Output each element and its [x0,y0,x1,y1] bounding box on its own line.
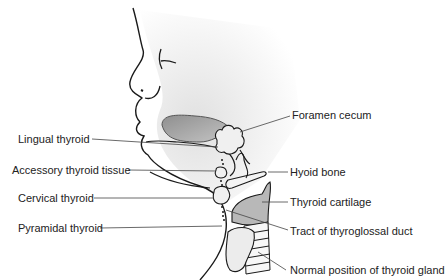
label-normal-position-of-thyroid-gland: Normal position of thyroid gland [290,264,445,276]
label-lingual-thyroid: Lingual thyroid [18,133,90,145]
cervical-thyroid-blob [213,186,229,204]
label-accessory-thyroid-tissue: Accessory thyroid tissue [12,164,131,176]
label-cervical-thyroid: Cervical thyroid [18,192,94,204]
label-hyoid-bone: Hyoid bone [290,166,346,178]
nasal-ala-icon [145,86,160,99]
label-foramen-cecum: Foramen cecum [292,109,371,121]
accessory-thyroid-blob [215,167,227,178]
label-tract-of-thyroglossal-duct: Tract of thyroglossal duct [290,225,412,237]
nostril-icon [141,90,143,91]
label-pyramidal-thyroid: Pyramidal thyroid [18,222,103,234]
label-thyroid-cartilage: Thyroid cartilage [290,196,371,208]
